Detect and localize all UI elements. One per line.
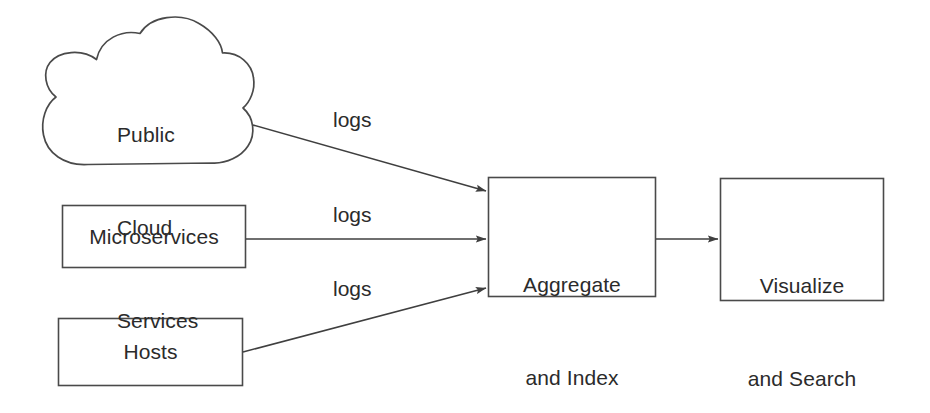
edge-cloud-to-aggregate	[253, 125, 486, 191]
hosts-label: Hosts	[58, 336, 243, 367]
visualize-and-search-label: Visualize and Search	[720, 208, 884, 413]
visualize-label-line-1: Visualize	[720, 270, 884, 301]
microservices-label: Microservices	[62, 221, 246, 252]
edge-label-logs-bottom: logs	[333, 277, 372, 301]
edge-label-logs-top: logs	[333, 108, 372, 132]
cloud-label-line-3: Services	[117, 305, 247, 336]
aggregate-label-line-2: and Index	[488, 362, 656, 393]
aggregate-label-line-1: Aggregate	[488, 269, 656, 300]
visualize-label-line-2: and Search	[720, 363, 884, 394]
edge-label-logs-middle: logs	[333, 203, 372, 227]
cloud-label-line-1: Public	[117, 119, 247, 150]
diagram-canvas: Public Cloud Services Microservices Host…	[0, 0, 930, 413]
aggregate-and-index-label: Aggregate and Index	[488, 207, 656, 413]
